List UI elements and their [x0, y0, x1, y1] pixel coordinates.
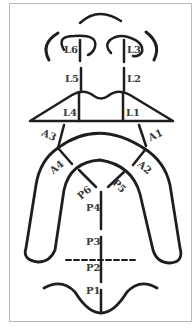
- label-P4: P4: [86, 202, 101, 213]
- label-P1: P1: [86, 285, 100, 296]
- label-P5: P5: [110, 177, 128, 195]
- label-A3: A3: [39, 127, 58, 144]
- label-L4: L4: [63, 107, 77, 118]
- segment-P6: [79, 170, 96, 187]
- outer-u-shape: [25, 133, 181, 263]
- label-L5: L5: [65, 73, 79, 84]
- label-P2: P2: [86, 262, 101, 273]
- label-P6: P6: [75, 184, 93, 202]
- top-arch: [80, 14, 121, 23]
- label-P3: P3: [86, 236, 101, 247]
- left-outer-bracket: [46, 33, 58, 60]
- landmark-diagram: L6 L3 L5 L2 L4 L1 A3 A1 A4 A2 P6 P5 P4 P…: [0, 0, 196, 331]
- lip-outline: [30, 92, 173, 121]
- label-A1: A1: [146, 127, 165, 144]
- label-A4: A4: [47, 158, 66, 177]
- right-outer-bracket: [146, 32, 157, 60]
- label-L2: L2: [127, 73, 141, 84]
- label-L3: L3: [127, 44, 141, 55]
- label-L6: L6: [64, 44, 78, 55]
- label-L1: L1: [126, 107, 140, 118]
- segment-A1: [139, 125, 146, 146]
